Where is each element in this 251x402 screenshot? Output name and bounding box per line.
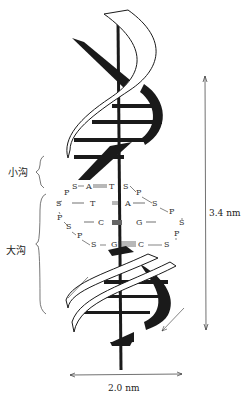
svg-text:S: S bbox=[164, 240, 169, 249]
svg-text:P: P bbox=[57, 213, 63, 222]
svg-text:G: G bbox=[136, 218, 142, 227]
base-pair-1: A T bbox=[85, 182, 115, 191]
svg-text:S: S bbox=[123, 182, 128, 191]
diameter-label: 2.0 nm bbox=[108, 383, 140, 393]
dna-helix-diagram: 小沟 大沟 SP SP SP S SP SP SP S A T T A C G … bbox=[0, 0, 251, 402]
svg-text:P: P bbox=[136, 188, 142, 197]
pitch-label: 3.4 nm bbox=[209, 208, 241, 218]
base-pair-2: T A bbox=[72, 199, 145, 208]
svg-text:S: S bbox=[56, 199, 61, 208]
pitch-dimension: 3.4 nm bbox=[203, 76, 241, 330]
svg-text:C: C bbox=[98, 218, 104, 227]
svg-text:S: S bbox=[91, 240, 96, 249]
svg-text:T: T bbox=[109, 182, 115, 191]
diameter-dimension: 2.0 nm bbox=[70, 372, 182, 393]
svg-text:A: A bbox=[124, 199, 131, 208]
svg-text:S: S bbox=[72, 182, 77, 191]
svg-text:P: P bbox=[64, 188, 70, 197]
svg-text:P: P bbox=[169, 207, 175, 216]
svg-text:T: T bbox=[90, 199, 96, 208]
svg-text:C: C bbox=[138, 240, 144, 249]
svg-text:P: P bbox=[174, 229, 180, 238]
svg-text:S: S bbox=[66, 222, 71, 231]
minor-groove-brace bbox=[36, 156, 44, 188]
minor-groove-label: 小沟 bbox=[8, 166, 28, 178]
svg-text:A: A bbox=[85, 182, 92, 191]
upper-strand-ribbon bbox=[67, 10, 156, 158]
svg-text:S: S bbox=[152, 199, 157, 208]
major-groove-label: 大沟 bbox=[6, 244, 26, 256]
svg-text:G: G bbox=[111, 240, 117, 249]
svg-text:P: P bbox=[77, 231, 83, 240]
major-groove-brace bbox=[36, 194, 46, 314]
